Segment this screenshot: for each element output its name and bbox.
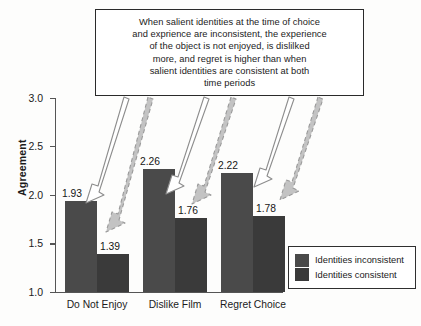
bar-value-label: 2.22 — [218, 160, 238, 171]
callout-line: time periods — [104, 77, 355, 89]
x-axis-line — [55, 292, 283, 293]
legend-label: Identities consistent — [315, 270, 397, 280]
y-tick-mark: 2.0 — [50, 195, 55, 196]
bar-value-label: 1.78 — [256, 203, 276, 214]
bar-value-label: 1.39 — [100, 241, 120, 252]
bar-regret-choice-inconsistent: 2.22 — [221, 173, 253, 292]
callout-line: of the object is not enjoyed, is dislilk… — [104, 40, 355, 52]
y-tick-mark: 1.5 — [50, 243, 55, 244]
y-tick-label: 2.0 — [28, 189, 43, 201]
annotation-callout-box: When salient identities at the time of c… — [95, 9, 364, 96]
legend-item-inconsistent: Identities inconsistent — [295, 254, 409, 267]
callout-line: When salient identities at the time of c… — [104, 16, 355, 28]
bar-do-not-enjoy-consistent: 1.39 — [97, 254, 129, 292]
chart-legend: Identities inconsistent Identities consi… — [288, 246, 416, 289]
x-tick-label-dislike-film: Dislike Film — [149, 299, 202, 310]
y-tick-label: 1.5 — [28, 237, 43, 249]
chart-figure: When salient identities at the time of c… — [0, 0, 421, 326]
legend-label: Identities inconsistent — [315, 255, 404, 265]
bar-value-label: 1.76 — [178, 205, 198, 216]
bar-dislike-film-consistent: 1.76 — [175, 218, 207, 292]
y-axis-title: Agreement — [16, 139, 28, 196]
callout-line: salient identities are consistent at bot… — [104, 65, 355, 77]
arrow-dashed-3 — [280, 97, 323, 200]
plot-area: 1.0 1.5 2.0 2.5 3.0 1.93 1.39 Do Not Enj… — [55, 98, 283, 293]
y-tick-mark: 1.0 — [50, 292, 55, 293]
legend-item-consistent: Identities consistent — [295, 268, 409, 281]
legend-swatch-icon — [295, 268, 309, 281]
y-tick-label: 3.0 — [28, 92, 43, 104]
bar-dislike-film-inconsistent: 2.26 — [143, 169, 175, 292]
y-tick-label: 2.5 — [28, 140, 43, 152]
callout-line: more, and regret is higher than when — [104, 53, 355, 65]
y-tick-label: 1.0 — [28, 286, 43, 298]
bar-regret-choice-consistent: 1.78 — [253, 216, 285, 292]
y-tick-mark: 2.5 — [50, 146, 55, 147]
bar-value-label: 2.26 — [140, 156, 160, 167]
y-tick-mark: 3.0 — [50, 98, 55, 99]
x-tick-label-do-not-enjoy: Do Not Enjoy — [67, 299, 128, 310]
bar-do-not-enjoy-inconsistent: 1.93 — [65, 201, 97, 292]
callout-line: and exprience are inconsistent, the expe… — [104, 28, 355, 40]
bar-value-label: 1.93 — [62, 188, 82, 199]
legend-swatch-icon — [295, 254, 309, 267]
y-axis-line — [55, 98, 56, 293]
x-tick-label-regret-choice: Regret Choice — [220, 299, 286, 310]
